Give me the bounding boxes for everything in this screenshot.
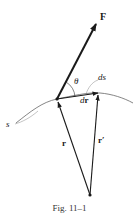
ds-leader-line	[86, 80, 98, 94]
figure-caption: Fig. 11–1	[0, 203, 139, 213]
r-label: r	[62, 139, 66, 148]
path-s-label: s	[6, 120, 10, 129]
particle-point	[55, 97, 58, 100]
work-diagram: F θ ds dr s r r′ Fig. 11–1	[0, 0, 139, 220]
diagram-canvas	[0, 0, 139, 220]
displacement-vector-dr	[57, 93, 98, 99]
dr-label: dr	[80, 96, 89, 105]
r-prime-label: r′	[98, 136, 105, 145]
force-label: F	[100, 12, 106, 22]
path-curve-s	[16, 93, 133, 123]
ds-label: ds	[98, 73, 106, 82]
force-vector-F	[57, 24, 96, 99]
s-leader-line	[15, 111, 38, 124]
position-vector-r	[58, 102, 90, 195]
position-vector-r-prime	[90, 95, 98, 195]
theta-label: θ	[74, 77, 78, 86]
origin-point	[88, 193, 91, 196]
